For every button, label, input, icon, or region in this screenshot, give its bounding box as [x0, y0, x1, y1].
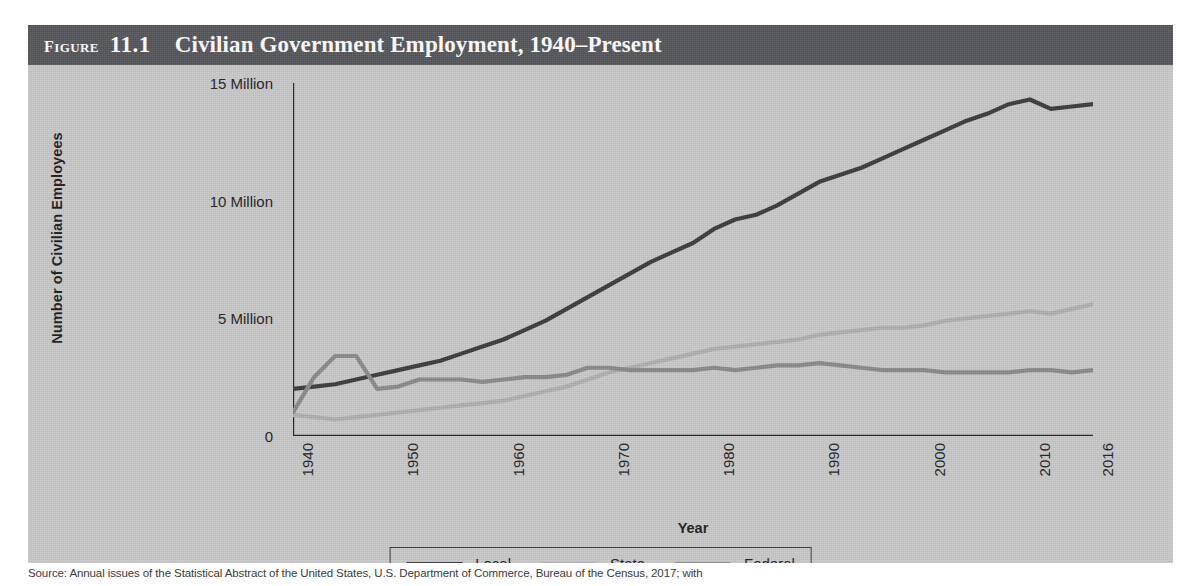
legend-swatch-icon [406, 562, 462, 564]
figure-label: Figure [44, 32, 99, 58]
legend-item-label: State [610, 555, 645, 563]
plot-region: 05 Million10 Million15 Million1940195019… [293, 83, 1093, 436]
figure-panel: Figure 11.1 Civilian Government Employme… [28, 25, 1173, 563]
x-axis-tick-label: 1980 [720, 443, 737, 476]
legend-item-label: Federal [744, 555, 795, 563]
x-axis-tick-label: 1960 [510, 443, 527, 476]
x-axis-tick-label: 1990 [825, 443, 842, 476]
x-axis-tick-label: 1970 [615, 443, 632, 476]
figure-number: 11.1 [110, 32, 151, 58]
x-axis-tick-label: 2016 [1099, 443, 1116, 476]
x-axis-tick-label: 1950 [404, 443, 421, 476]
legend-swatch-icon [675, 562, 731, 564]
y-axis-tick-label: 15 Million [210, 75, 273, 92]
legend-item-federal[interactable]: Federal [675, 555, 795, 563]
x-axis-tick-label: 2000 [931, 443, 948, 476]
y-axis-tick-label: 0 [265, 428, 273, 445]
legend-item-state[interactable]: State [541, 555, 645, 563]
y-axis-title: Number of Civilian Employees [49, 123, 65, 353]
chart-series-lines [293, 83, 1093, 436]
chart-legend: LocalStateFederal [389, 547, 812, 563]
legend-item-label: Local [475, 555, 511, 563]
y-axis-tick-label: 5 Million [218, 310, 273, 327]
x-axis-title: Year [293, 520, 1093, 536]
legend-item-local[interactable]: Local [406, 555, 511, 563]
x-axis-tick-label: 1940 [299, 443, 316, 476]
x-axis-tick-label: 2010 [1036, 443, 1053, 476]
figure-title: Civilian Government Employment, 1940–Pre… [175, 32, 662, 58]
y-axis-tick-label: 10 Million [210, 192, 273, 209]
legend-swatch-icon [541, 562, 597, 564]
source-note: Source: Annual issues of the Statistical… [28, 567, 1178, 579]
figure-title-bar: Figure 11.1 Civilian Government Employme… [28, 25, 1173, 65]
chart-area: Number of Civilian Employees 05 Million1… [28, 65, 1173, 563]
